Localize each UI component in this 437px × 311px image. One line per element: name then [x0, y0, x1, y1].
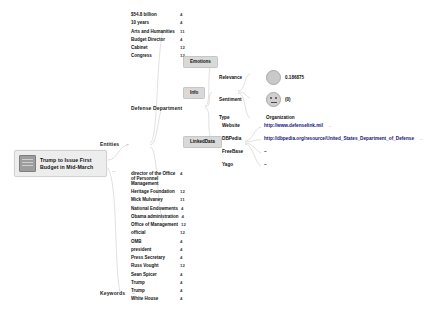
entity-name: National Endowments — [131, 206, 178, 211]
info-sentiment-row: Sentiment (0) — [219, 92, 291, 107]
entity-list-top[interactable]: $54.8 billion410 years4Arts and Humaniti… — [131, 12, 185, 62]
entity-defense-department-label: Defense Department — [131, 105, 182, 111]
root-collapse-toggle[interactable]: – — [112, 169, 115, 174]
node-emotions[interactable]: Emotions — [183, 56, 218, 68]
branch-keywords[interactable]: Keywords– — [100, 290, 135, 296]
linkeddata-row: Websitehttp://www.defenselink.mil– — [222, 123, 331, 128]
entity-count: 12 — [181, 222, 186, 227]
entity-row[interactable]: Budget Director4 — [131, 37, 185, 42]
entity-name: Arts and Humanities — [131, 29, 177, 34]
entity-count: 4 — [180, 171, 182, 176]
entity-name: Sean Spicer — [131, 272, 177, 277]
entity-count: 4 — [180, 296, 182, 301]
info-type-value: Organization — [266, 115, 295, 120]
entity-row[interactable]: Office of Management12 — [131, 222, 186, 227]
root-article-node[interactable]: Trump to Issue First Budget in Mid-March… — [14, 150, 107, 177]
entity-count: 4 — [180, 37, 182, 42]
entity-row[interactable]: 10 years4 — [131, 20, 185, 25]
entity-name: Heritage Foundation — [131, 189, 177, 194]
entity-name: Congress — [131, 53, 177, 58]
entity-name: White House — [131, 296, 177, 301]
entity-name: official — [131, 230, 177, 235]
linkeddata-value: – — [264, 162, 267, 167]
entity-count: 12 — [180, 189, 185, 194]
linkeddata-row: Yago– — [222, 162, 267, 167]
branch-entities[interactable]: Entities– — [100, 141, 129, 147]
entity-row[interactable]: official12 — [131, 230, 186, 235]
entity-count: 4 — [180, 12, 182, 17]
entity-name: 10 years — [131, 20, 177, 25]
entity-row[interactable]: Arts and Humanities11 — [131, 29, 185, 34]
entity-defense-department[interactable]: Defense Department — [131, 105, 182, 111]
entity-name: Cabinet — [131, 45, 177, 50]
entity-count: 4 — [180, 255, 182, 260]
linkeddata-row: DBPediahttp://dbpedia.org/resource/Unite… — [222, 136, 422, 141]
entity-name: Trump — [131, 280, 177, 285]
entity-name: Budget Director — [131, 37, 177, 42]
relevance-gauge-icon — [266, 70, 281, 85]
entity-count: 4 — [180, 20, 182, 25]
linkeddata-row: FreeBase– — [222, 149, 267, 154]
info-type-label: Type — [219, 115, 266, 120]
entity-count: 11 — [180, 29, 185, 34]
entity-count: 4 — [180, 272, 182, 277]
entity-row[interactable]: president4 — [131, 247, 186, 252]
node-info[interactable]: Info — [183, 87, 205, 99]
linkeddata-value[interactable]: http://www.defenselink.mil — [264, 123, 323, 128]
entity-name: president — [131, 247, 177, 252]
entity-name: Obama administration — [131, 214, 179, 219]
entity-row[interactable]: Trump4 — [131, 288, 186, 293]
entity-count: 11 — [180, 197, 185, 202]
entity-count: 12 — [180, 230, 185, 235]
branch-entities-toggle[interactable]: – — [126, 142, 129, 147]
entity-row[interactable]: OMB4 — [131, 239, 186, 244]
linkeddata-expand-toggle[interactable]: – — [329, 123, 331, 128]
entity-name: Trump — [131, 288, 177, 293]
entity-row[interactable]: Mick Mulvaney11 — [131, 197, 186, 202]
entity-row[interactable]: Congress12 — [131, 53, 185, 58]
entity-row[interactable]: director of the Office of Personnel Mana… — [131, 171, 186, 186]
entity-count: 4 — [182, 214, 184, 219]
entity-name: Mick Mulvaney — [131, 197, 177, 202]
info-sentiment-label: Sentiment — [219, 97, 266, 102]
entity-name: director of the Office of Personnel Mana… — [131, 171, 177, 186]
entity-name: Press Secretary — [131, 255, 177, 260]
entity-row[interactable]: Obama administration4 — [131, 214, 186, 219]
entity-count: 12 — [180, 263, 185, 268]
entity-row[interactable]: Trump4 — [131, 280, 186, 285]
linkeddata-expand-toggle[interactable]: – — [420, 136, 422, 141]
info-relevance-label: Relevance — [219, 75, 266, 80]
info-type-row: Type Organization — [219, 115, 295, 120]
branch-entities-label: Entities — [100, 141, 119, 147]
node-linkeddata[interactable]: LinkedData — [183, 136, 222, 148]
linkeddata-value[interactable]: http://dbpedia.org/resource/United_State… — [264, 136, 414, 141]
entity-row[interactable]: Heritage Foundation12 — [131, 189, 186, 194]
linkeddata-label: Website — [222, 123, 264, 128]
entity-row[interactable]: White House4 — [131, 296, 186, 301]
branch-keywords-label: Keywords — [100, 290, 125, 296]
entity-count: 4 — [181, 206, 183, 211]
knowledge-graph-canvas[interactable]: Trump to Issue First Budget in Mid-March… — [0, 0, 437, 311]
linkeddata-label: FreeBase — [222, 149, 264, 154]
document-thumbnail-icon — [19, 155, 36, 172]
entity-row[interactable]: Russ Vought12 — [131, 263, 186, 268]
neutral-face-icon — [266, 92, 281, 107]
linkeddata-label: Yago — [222, 162, 264, 167]
info-relevance-value: 0.186875 — [285, 75, 304, 80]
entity-row[interactable]: Cabinet12 — [131, 45, 185, 50]
entity-row[interactable]: National Endowments4 — [131, 206, 186, 211]
entity-list-bottom[interactable]: director of the Office of Personnel Mana… — [131, 171, 186, 305]
entity-count: 4 — [180, 239, 182, 244]
entity-row[interactable]: Sean Spicer4 — [131, 272, 186, 277]
linkeddata-value: – — [264, 149, 267, 154]
linkeddata-label: DBPedia — [222, 136, 264, 141]
entity-row[interactable]: $54.8 billion4 — [131, 12, 185, 17]
page-title: Trump to Issue First Budget in Mid-March — [40, 157, 101, 170]
entity-count: 12 — [180, 45, 185, 50]
info-sentiment-value: (0) — [285, 97, 291, 102]
entity-row[interactable]: Press Secretary4 — [131, 255, 186, 260]
entity-count: 4 — [180, 288, 182, 293]
entity-count: 4 — [180, 247, 182, 252]
entity-name: OMB — [131, 239, 177, 244]
entity-name: Office of Management — [131, 222, 178, 227]
